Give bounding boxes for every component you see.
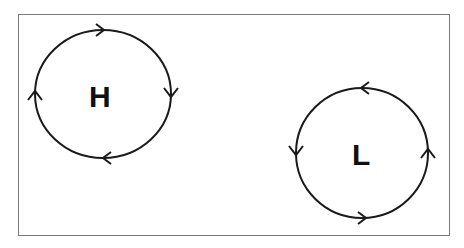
low-pressure-label: L — [352, 140, 370, 170]
diagram-canvas — [0, 0, 464, 248]
high-pressure-label: H — [89, 82, 111, 112]
